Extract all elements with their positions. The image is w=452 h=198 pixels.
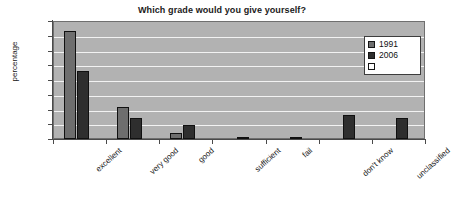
x-axis-tick-mark: [106, 140, 107, 144]
bar: [343, 115, 355, 139]
x-axis-tick-mark: [266, 140, 267, 144]
y-axis-tick-mark: [48, 65, 52, 66]
y-axis-tick-mark: [48, 95, 52, 96]
x-axis-tick-mark: [425, 140, 426, 144]
x-axis-category-label: don't know: [361, 146, 395, 178]
bar: [237, 137, 249, 139]
legend: 19912006: [364, 36, 421, 75]
legend-item[interactable]: 2006: [368, 50, 417, 61]
bar: [64, 31, 76, 139]
x-axis-tick-mark: [159, 140, 160, 144]
x-axis-category-label: fail: [301, 146, 315, 160]
x-axis-tick-mark: [212, 140, 213, 144]
y-axis-tick-mark: [48, 80, 52, 81]
bar-group: [330, 21, 355, 139]
y-axis-tick-mark: [48, 21, 52, 22]
legend-label: 2006: [379, 51, 398, 60]
bar: [183, 125, 195, 139]
legend-item[interactable]: 1991: [368, 39, 417, 50]
bar: [396, 118, 408, 139]
y-axis-tick-mark: [48, 110, 52, 111]
y-axis-title: percentage: [10, 27, 19, 97]
y-axis-tick-mark: [48, 51, 52, 52]
x-axis-category-label: excellent: [94, 146, 123, 174]
bar: [117, 107, 129, 139]
y-axis-tick-mark: [48, 139, 52, 140]
x-axis-tick-mark: [319, 140, 320, 144]
x-axis-category-label: sufficient: [253, 146, 282, 174]
y-axis-tick-mark: [48, 124, 52, 125]
legend-swatch: [368, 41, 375, 48]
bar: [77, 71, 89, 139]
x-axis-category-label: very good: [148, 146, 180, 176]
bar-group: [117, 21, 142, 139]
legend-swatch: [368, 63, 375, 70]
chart-title: Which grade would you give yourself?: [0, 5, 444, 15]
x-axis-category-label: good: [196, 146, 215, 165]
x-axis-tick-mark: [372, 140, 373, 144]
x-axis-tick-mark: [53, 140, 54, 144]
legend-swatch: [368, 52, 375, 59]
legend-label: 1991: [379, 40, 398, 49]
bar-group: [224, 21, 249, 139]
bar-group: [277, 21, 302, 139]
bar-group: [170, 21, 195, 139]
bar: [130, 118, 142, 139]
y-axis-tick-mark: [48, 36, 52, 37]
legend-item[interactable]: [368, 61, 417, 72]
x-axis-line: [52, 139, 426, 140]
x-axis-category-label: unclassified: [415, 146, 452, 181]
bar-group: [64, 21, 89, 139]
bar: [290, 137, 302, 139]
bar: [170, 133, 182, 139]
